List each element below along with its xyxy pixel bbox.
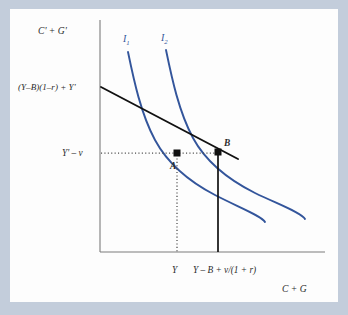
point-label-b: B [223, 138, 230, 148]
point-marker-a [174, 150, 181, 157]
x-tick-label-b: Y – B + v/(1 + r) [193, 265, 256, 276]
curve-label-i1: I1 [122, 33, 130, 46]
curve-label-i2: I2 [160, 32, 168, 45]
budget-constraint-line [101, 87, 238, 159]
leader-lines-group [101, 152, 218, 252]
y-tick-label: Y' – v [62, 148, 83, 158]
x-tick-label-a: Y [172, 265, 178, 275]
point-label-a: A [169, 161, 176, 171]
indifference-curve-i2 [166, 50, 305, 219]
indifference-curves-group [128, 50, 305, 222]
y-axis-title: C' + G' [38, 25, 68, 36]
figure-frame: C' + G' C + G (Y–B)(1–r) + Y' Y' – v Y Y… [0, 0, 348, 315]
curve-label-i2-subscript: 2 [164, 38, 168, 45]
economics-diagram: C' + G' C + G (Y–B)(1–r) + Y' Y' – v Y Y… [10, 9, 338, 302]
figure-page: C' + G' C + G (Y–B)(1–r) + Y' Y' – v Y Y… [10, 9, 338, 302]
x-axis-title: C + G [282, 283, 307, 294]
curve-label-i1-subscript: 1 [126, 39, 129, 46]
axes-group [100, 20, 325, 252]
point-marker-b [215, 149, 222, 156]
y-intercept-label: (Y–B)(1–r) + Y' [18, 82, 77, 92]
